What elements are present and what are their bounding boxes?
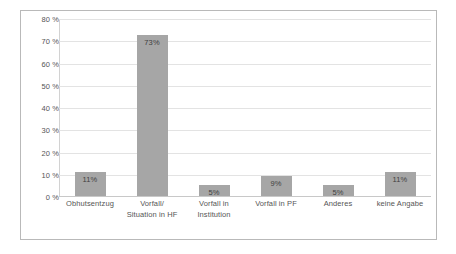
x-axis-category-line: Vorfall in (183, 199, 245, 210)
x-axis-category-label: Vorfall inInstitution (183, 199, 245, 220)
x-axis-category-label: Obhutsentzug (59, 199, 121, 220)
x-axis-category-line: Obhutsentzug (59, 199, 121, 210)
x-axis-category-label: Vorfall/Situation in HF (121, 199, 183, 220)
y-axis-tick-label: 50 % (21, 81, 59, 90)
chart-plot-wrapper: 0 %10 %20 %30 %40 %50 %60 %70 %80 % 11%7… (21, 11, 436, 239)
x-axis-category-line: keine Angabe (369, 199, 431, 210)
y-axis-tick-label: 0 % (21, 193, 59, 202)
x-axis-category-label: Anderes (307, 199, 369, 220)
bar[interactable]: 5% (323, 185, 354, 196)
bar-slot: 9% (245, 19, 307, 196)
x-axis-category-line: Anderes (307, 199, 369, 210)
bar-data-label: 11% (393, 175, 408, 184)
x-axis-category-label: keine Angabe (369, 199, 431, 220)
y-axis-tick-label: 30 % (21, 126, 59, 135)
bar-slot: 5% (183, 19, 245, 196)
bar-slot: 73% (121, 19, 183, 196)
y-axis-tick-labels: 0 %10 %20 %30 %40 %50 %60 %70 %80 % (21, 19, 59, 197)
y-axis-tick-label: 40 % (21, 104, 59, 113)
x-axis-category-line: Institution (183, 210, 245, 221)
x-axis-baseline (59, 196, 431, 197)
bar-data-label: 5% (208, 188, 219, 197)
x-axis-category-line: Vorfall/ (121, 199, 183, 210)
y-axis-tick-label: 20 % (21, 148, 59, 157)
bar[interactable]: 73% (137, 35, 168, 197)
x-axis-category-line: Situation in HF (121, 210, 183, 221)
y-axis-tick-label: 60 % (21, 59, 59, 68)
bar-series: 11%73%5%9%5%11% (59, 19, 431, 196)
bar-data-label: 11% (83, 175, 98, 184)
bar[interactable]: 5% (199, 185, 230, 196)
bar[interactable]: 11% (75, 172, 106, 196)
bar-slot: 11% (369, 19, 431, 196)
bar-data-label: 5% (332, 188, 343, 197)
plot-area: 11%73%5%9%5%11% (59, 19, 431, 197)
bar-slot: 5% (307, 19, 369, 196)
x-axis-category-line: Vorfall in PF (245, 199, 307, 210)
chart-frame: 0 %10 %20 %30 %40 %50 %60 %70 %80 % 11%7… (20, 10, 437, 240)
y-axis-tick-label: 70 % (21, 37, 59, 46)
y-axis-tick-label: 10 % (21, 170, 59, 179)
bar[interactable]: 11% (385, 172, 416, 196)
bar-slot: 11% (59, 19, 121, 196)
x-axis-category-labels: ObhutsentzugVorfall/Situation in HFVorfa… (59, 199, 431, 220)
bar[interactable]: 9% (261, 176, 292, 196)
bar-data-label: 73% (144, 38, 159, 47)
bar-data-label: 9% (270, 179, 281, 188)
y-axis-tick-label: 80 % (21, 15, 59, 24)
x-axis-category-label: Vorfall in PF (245, 199, 307, 220)
